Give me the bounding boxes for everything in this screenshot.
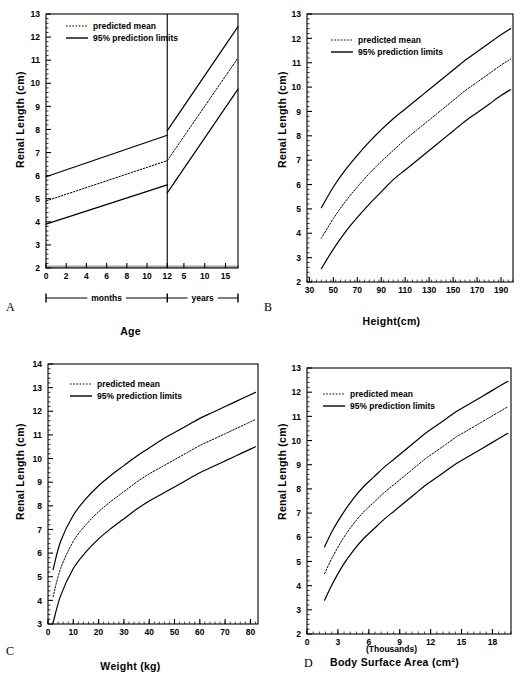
x-tick-label: 10 [200,271,210,281]
y-tick-label: 5 [35,194,40,204]
series-curve-1 [167,58,238,161]
renal-length-figure: 234567891011121302468101251015monthsyear… [0,0,522,684]
y-tick-label: 13 [33,383,43,393]
series-curve-0 [53,392,255,569]
series-curve-1 [53,420,255,597]
panel-letter-d: D [304,656,313,671]
y-tick-label: 10 [33,454,43,464]
x-tick-label: 50 [329,285,339,295]
series-curve-1 [46,161,167,201]
y-tick-label: 12 [292,34,302,44]
panel-letter-c: C [6,644,14,659]
y-tick-label: 11 [292,412,301,422]
panel-a-x-axis-label: Age [0,325,261,337]
y-tick-label: 5 [37,572,42,582]
y-tick-label: 8 [37,501,42,511]
y-tick-label: 12 [31,32,41,42]
legend-label-limits: 95% prediction limits [97,391,182,401]
y-tick-label: 9 [37,477,42,487]
x-tick-label: 80 [246,627,256,637]
y-tick-label: 13 [292,363,302,373]
y-tick-label: 3 [296,253,301,263]
panel-d-x-axis-label: Body Surface Area (cm²) [330,656,459,668]
y-tick-label: 7 [35,148,40,158]
x-tick-label: 20 [94,627,104,637]
panel-a-plot: 234567891011121302468101251015monthsyear… [0,0,261,342]
x-tick-label: 5 [182,271,187,281]
y-tick-label: 11 [33,430,42,440]
x-tick-label: 130 [422,285,436,295]
y-tick-label: 10 [31,78,41,88]
y-tick-label: 4 [37,596,42,606]
x-tick-label: 10 [142,271,152,281]
y-tick-label: 13 [292,9,302,19]
y-tick-label: 7 [37,525,42,535]
y-tick-label: 6 [35,171,40,181]
x-tick-label: 15 [221,271,231,281]
panel-b-plot: 234567891011121330507090110130150170190p… [261,0,522,342]
y-tick-label: 6 [296,180,301,190]
panel-b-x-axis-label: Height(cm) [261,315,522,327]
x-tick-label: 0 [46,627,51,637]
panel-b-height: 234567891011121330507090110130150170190p… [261,0,522,342]
x-tick-label: 6 [104,271,109,281]
panel-c-plot: 3456789101112131401020304050607080predic… [0,342,261,684]
y-tick-label: 14 [33,359,43,369]
y-tick-label: 7 [296,508,301,518]
panel-d-plot: 23456789101112130369121518predicted mean… [261,342,522,684]
x-tick-label: 2 [64,271,69,281]
legend-label-limits: 95% prediction limits [93,33,178,43]
x-tick-label: 50 [170,627,180,637]
y-tick-label: 8 [296,484,301,494]
x-tick-label: 70 [220,627,230,637]
series-curve-0 [46,135,167,177]
y-tick-label: 12 [292,387,302,397]
x-tick-label: 30 [305,285,315,295]
age-unit-years-label: years [192,293,214,303]
x-tick-label: 30 [119,627,129,637]
age-unit-months-label: months [91,293,122,303]
x-tick-label: 4 [84,271,89,281]
y-tick-label: 5 [296,557,301,567]
x-tick-label: 40 [144,627,154,637]
y-tick-label: 2 [35,263,40,273]
panel-c-y-axis-label: Renal Length (cm) [14,423,26,520]
y-tick-label: 11 [292,58,301,68]
legend-label-mean: predicted mean [93,21,156,31]
x-tick-label: 90 [377,285,387,295]
y-tick-label: 6 [296,532,301,542]
y-tick-label: 2 [296,629,301,639]
series-curve-2 [46,185,167,224]
series-curve-1 [321,59,510,238]
y-tick-label: 10 [292,82,302,92]
panel-b-y-axis-label: Renal Length (cm) [276,71,288,168]
y-tick-label: 8 [296,131,301,141]
y-tick-label: 3 [37,619,42,629]
panel-c-x-axis-label: Weight (kg) [0,660,261,672]
series-curve-2 [325,433,508,600]
y-tick-label: 11 [31,55,40,65]
y-tick-label: 5 [296,204,301,214]
plot-frame [48,364,258,624]
panel-d-y-axis-label: Renal Length (cm) [276,423,288,520]
panel-d-bsa: 23456789101112130369121518predicted mean… [261,342,522,684]
y-tick-label: 4 [35,217,40,227]
y-tick-label: 10 [292,436,302,446]
y-tick-label: 6 [37,548,42,558]
panel-letter-b: B [264,300,272,315]
y-tick-label: 4 [296,581,301,591]
y-tick-label: 7 [296,155,301,165]
plot-frame [46,14,238,268]
series-curve-2 [321,90,510,269]
y-tick-label: 4 [296,228,301,238]
x-tick-label: 10 [69,627,79,637]
y-tick-label: 9 [296,460,301,470]
x-tick-label: 12 [163,271,173,281]
y-tick-label: 3 [35,240,40,250]
x-tick-label: 110 [398,285,412,295]
y-tick-label: 8 [35,125,40,135]
series-curve-2 [53,447,255,623]
legend-label-mean: predicted mean [350,389,413,399]
legend-label-mean: predicted mean [97,379,160,389]
x-tick-label: 70 [353,285,363,295]
